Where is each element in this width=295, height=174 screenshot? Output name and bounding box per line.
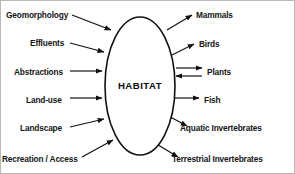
node-label-land-use: Land-use	[26, 96, 62, 104]
connector-arrow	[70, 43, 104, 52]
node-label-geomorphology: Geomorphology	[6, 11, 68, 19]
node-label-effluents: Effluents	[30, 39, 64, 47]
node-label-terrestrial-invertebrates: Terrestrial Invertebrates	[172, 155, 263, 163]
node-label-fish: Fish	[204, 96, 220, 104]
connector-arrow	[172, 44, 194, 55]
connector-arrow	[70, 119, 104, 127]
connector-arrow	[72, 15, 111, 30]
connector-arrow	[167, 15, 192, 30]
habitat-concept-diagram: HABITAT GeomorphologyEffluentsAbstractio…	[0, 0, 295, 174]
node-label-mammals: Mammals	[196, 11, 233, 19]
node-label-birds: Birds	[199, 40, 219, 48]
node-label-plants: Plants	[207, 68, 231, 76]
connector-arrow	[82, 140, 113, 157]
connector-arrow	[176, 68, 202, 76]
node-label-recreation-access: Recreation / Access	[2, 155, 78, 163]
node-label-aquatic-invertebrates: Aquatic Invertebrates	[180, 124, 262, 132]
node-label-abstractions: Abstractions	[14, 68, 63, 76]
habitat-center-label: HABITAT	[118, 81, 162, 91]
node-label-landscape: Landscape	[20, 124, 62, 132]
